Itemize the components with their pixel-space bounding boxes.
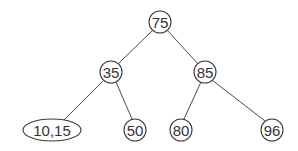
edge-35-1015 <box>64 80 104 120</box>
edges <box>64 30 265 121</box>
node-96: 96 <box>261 119 283 141</box>
edge-85-96 <box>212 80 265 121</box>
node-80: 80 <box>170 119 192 141</box>
node-label: 80 <box>173 122 190 139</box>
node-10-15: 10,15 <box>23 119 81 141</box>
node-75: 75 <box>149 11 171 33</box>
node-50: 50 <box>124 119 146 141</box>
edge-35-50 <box>116 82 132 119</box>
node-35: 35 <box>100 61 122 83</box>
node-label: 85 <box>197 64 214 81</box>
node-label: 75 <box>152 14 169 31</box>
edge-85-80 <box>184 82 201 119</box>
tree-diagram: 75 35 85 10,15 50 80 96 <box>0 0 298 151</box>
edge-75-85 <box>167 30 198 64</box>
node-label: 96 <box>264 122 281 139</box>
node-label: 35 <box>103 64 120 81</box>
edge-75-35 <box>118 30 153 64</box>
node-label: 10,15 <box>33 122 71 139</box>
node-label: 50 <box>127 122 144 139</box>
node-85: 85 <box>194 61 216 83</box>
